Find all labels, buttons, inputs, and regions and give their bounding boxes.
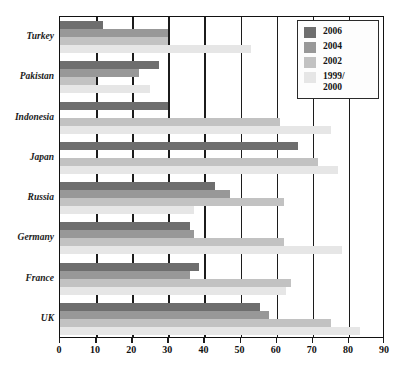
x-tick-label-0: 0 — [57, 344, 62, 355]
x-tick-label-20: 20 — [126, 344, 136, 355]
category-label-russia: Russia — [0, 192, 54, 202]
legend-item-2004[interactable]: 2004 — [304, 41, 374, 53]
bar-france-2002 — [60, 279, 291, 287]
legend-label: 1999/ 2000 — [323, 71, 345, 93]
category-label-indonesia: Indonesia — [0, 112, 54, 122]
legend-swatch-icon — [304, 57, 316, 68]
x-tick-80 — [348, 338, 349, 343]
bar-uk-2006 — [60, 303, 260, 311]
bar-turkey-2006 — [60, 21, 103, 29]
bar-germany-2006 — [60, 222, 190, 230]
bar-indonesia-2002 — [60, 118, 280, 126]
bar-japan-2002 — [60, 158, 318, 166]
category-label-pakistan: Pakistan — [0, 71, 54, 81]
bar-turkey-19992000 — [60, 45, 251, 53]
bar-indonesia-2006 — [60, 102, 168, 110]
category-label-turkey: Turkey — [0, 31, 54, 41]
legend-swatch-icon — [304, 27, 316, 38]
x-tick-label-40: 40 — [198, 344, 208, 355]
x-tick-60 — [276, 338, 277, 343]
bar-france-2004 — [60, 271, 190, 279]
x-tick-label-80: 80 — [343, 344, 353, 355]
chart-legend: 2006200420021999/ 2000 — [297, 20, 379, 99]
bar-russia-19992000 — [60, 206, 194, 214]
x-tick-70 — [312, 338, 313, 343]
x-tick-label-50: 50 — [235, 344, 245, 355]
bar-germany-2004 — [60, 230, 194, 238]
x-tick-label-90: 90 — [379, 344, 389, 355]
bar-france-19992000 — [60, 287, 286, 295]
category-axis: TurkeyPakistanIndonesiaJapanRussiaGerman… — [0, 18, 58, 336]
x-tick-10 — [95, 338, 96, 343]
bar-turkey-2004 — [60, 29, 168, 37]
bar-pakistan-2006 — [60, 61, 159, 69]
x-tick-40 — [203, 338, 204, 343]
legend-label: 2004 — [323, 41, 342, 52]
bar-russia-2004 — [60, 190, 230, 198]
bar-germany-19992000 — [60, 246, 342, 254]
bar-indonesia-19992000 — [60, 126, 331, 134]
bar-japan-19992000 — [60, 166, 338, 174]
bar-russia-2002 — [60, 198, 284, 206]
bar-uk-2002 — [60, 319, 331, 327]
x-tick-30 — [167, 338, 168, 343]
bar-chart-figure: TurkeyPakistanIndonesiaJapanRussiaGerman… — [0, 0, 400, 378]
x-tick-0 — [59, 338, 60, 343]
bar-japan-2006 — [60, 142, 298, 150]
bar-uk-19992000 — [60, 327, 360, 335]
legend-item-2006[interactable]: 2006 — [304, 26, 374, 38]
bar-pakistan-2002 — [60, 77, 96, 85]
x-tick-label-10: 10 — [90, 344, 100, 355]
legend-swatch-icon — [304, 42, 316, 53]
x-axis: 0102030405060708090 — [59, 338, 384, 360]
x-tick-label-30: 30 — [162, 344, 172, 355]
x-tick-90 — [383, 338, 384, 343]
x-tick-label-60: 60 — [271, 344, 281, 355]
legend-item-2002[interactable]: 2002 — [304, 56, 374, 68]
category-label-japan: Japan — [0, 152, 54, 162]
x-tick-label-70: 70 — [307, 344, 317, 355]
category-label-uk: UK — [0, 313, 54, 323]
x-tick-50 — [240, 338, 241, 343]
bar-germany-2002 — [60, 238, 284, 246]
x-tick-20 — [131, 338, 132, 343]
legend-swatch-icon — [304, 72, 316, 83]
category-label-france: France — [0, 273, 54, 283]
bar-pakistan-19992000 — [60, 85, 150, 93]
legend-label: 2006 — [323, 26, 342, 37]
bar-russia-2006 — [60, 182, 215, 190]
bar-pakistan-2004 — [60, 69, 139, 77]
bar-uk-2004 — [60, 311, 269, 319]
legend-label: 2002 — [323, 56, 342, 67]
bar-turkey-2002 — [60, 37, 168, 45]
legend-item-19992000[interactable]: 1999/ 2000 — [304, 71, 374, 93]
category-label-germany: Germany — [0, 232, 54, 242]
bar-france-2006 — [60, 263, 199, 271]
